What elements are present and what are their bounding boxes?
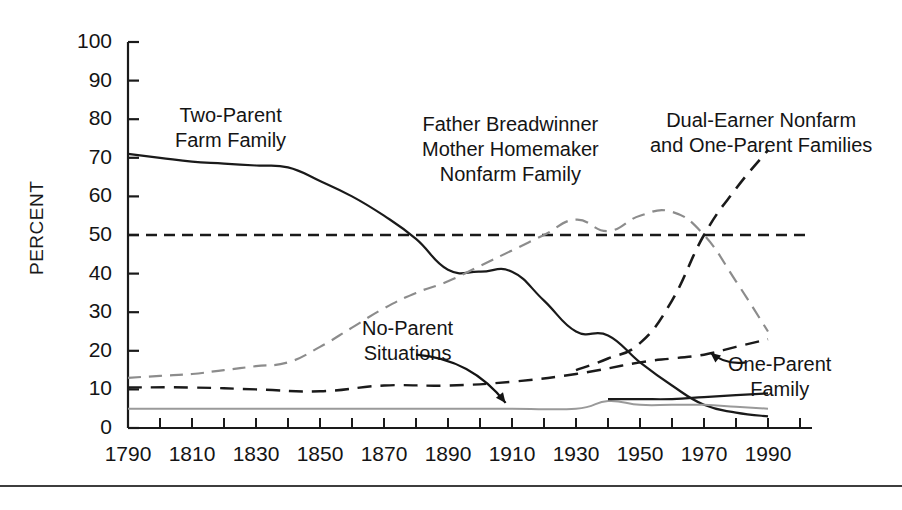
- y-tick-label: 80: [66, 106, 112, 130]
- annotation-one-parent-family: One-ParentFamily: [728, 352, 831, 402]
- annotation-line: Farm Family: [175, 128, 286, 153]
- annotation-line: Father Breadwinner: [422, 112, 599, 137]
- y-tick-label: 20: [66, 338, 112, 362]
- x-tick-label: 1870: [348, 442, 420, 466]
- annotation-line: One-Parent: [728, 352, 831, 377]
- annotation-line: and One-Parent Families: [650, 133, 872, 158]
- x-tick-label: 1830: [220, 442, 292, 466]
- y-axis-title: PERCENT: [26, 181, 48, 275]
- annotation-two-parent-farm-family: Two-ParentFarm Family: [175, 103, 286, 153]
- y-tick-label: 40: [66, 261, 112, 285]
- bottom-divider-rule: [0, 485, 902, 487]
- series-line-3: [128, 401, 768, 410]
- annotation-line: No-Parent: [362, 316, 453, 341]
- x-tick-label: 1910: [476, 442, 548, 466]
- x-tick-label: 1810: [156, 442, 228, 466]
- series-line-2: [576, 150, 768, 370]
- annotation-dual-earner-and-one-parent: Dual-Earner Nonfarmand One-Parent Famili…: [650, 108, 872, 158]
- chart-figure: PERCENT 0102030405060708090100 179018101…: [0, 0, 902, 510]
- x-tick-label: 1950: [604, 442, 676, 466]
- y-tick-label: 30: [66, 299, 112, 323]
- x-tick-label: 1990: [732, 442, 804, 466]
- annotation-line: Nonfarm Family: [422, 162, 599, 187]
- y-tick-label: 0: [66, 415, 112, 439]
- annotation-line: Mother Homemaker: [422, 137, 599, 162]
- x-tick-label: 1790: [92, 442, 164, 466]
- x-tick-label: 1850: [284, 442, 356, 466]
- y-tick-label: 70: [66, 145, 112, 169]
- series-line-0: [128, 154, 768, 417]
- annotation-line: Dual-Earner Nonfarm: [650, 108, 872, 133]
- annotation-line: Two-Parent: [175, 103, 286, 128]
- y-tick-label: 90: [66, 68, 112, 92]
- y-tick-label: 10: [66, 376, 112, 400]
- annotation-line: Situations: [362, 341, 453, 366]
- annotation-no-parent-situations: No-ParentSituations: [362, 316, 453, 366]
- annotation-line: Family: [728, 377, 831, 402]
- y-tick-label: 50: [66, 222, 112, 246]
- annotation-father-breadwinner-nonfarm: Father BreadwinnerMother HomemakerNonfar…: [422, 112, 599, 187]
- chart-canvas: [0, 0, 902, 510]
- y-tick-label: 100: [66, 29, 112, 53]
- x-tick-label: 1970: [668, 442, 740, 466]
- y-tick-label: 60: [66, 183, 112, 207]
- x-tick-label: 1930: [540, 442, 612, 466]
- x-tick-label: 1890: [412, 442, 484, 466]
